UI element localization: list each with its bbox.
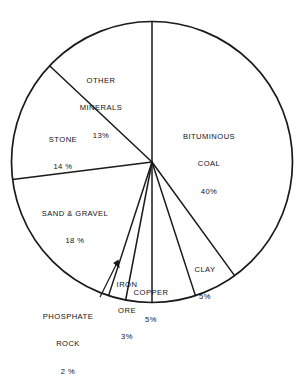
slice-name2-other-minerals: MINERALS bbox=[70, 103, 132, 112]
slice-name-sand-gravel: SAND & GRAVEL bbox=[23, 209, 127, 218]
slice-value-bituminous-coal: 40% bbox=[168, 187, 250, 196]
slice-value-clay: 5% bbox=[183, 292, 227, 301]
slice-name-clay: CLAY bbox=[183, 265, 227, 274]
slice-value-stone: 14 % bbox=[35, 162, 91, 171]
slice-name2-phosphate-rock: ROCK bbox=[20, 339, 116, 348]
slice-label-phosphate-rock: PHOSPHATE ROCK 2 % bbox=[20, 293, 116, 378]
slice-name-bituminous-coal: BITUMINOUS bbox=[168, 132, 250, 141]
slice-value-phosphate-rock: 2 % bbox=[20, 367, 116, 376]
slice-label-bituminous-coal: BITUMINOUS COAL 40% bbox=[168, 113, 250, 215]
slice-name-iron-ore: IRON bbox=[110, 281, 144, 290]
slice-name-phosphate-rock: PHOSPHATE bbox=[20, 312, 116, 321]
slice-label-other-minerals: OTHER MINERALS 13% bbox=[70, 57, 132, 159]
slice-label-sand-gravel: SAND & GRAVEL 18 % bbox=[23, 190, 127, 264]
slice-value-sand-gravel: 18 % bbox=[23, 236, 127, 245]
slice-value-other-minerals: 13% bbox=[70, 131, 132, 140]
slice-label-clay: CLAY 5% bbox=[183, 246, 227, 320]
slice-name-other-minerals: OTHER bbox=[70, 76, 132, 85]
slice-name2-bituminous-coal: COAL bbox=[168, 159, 250, 168]
